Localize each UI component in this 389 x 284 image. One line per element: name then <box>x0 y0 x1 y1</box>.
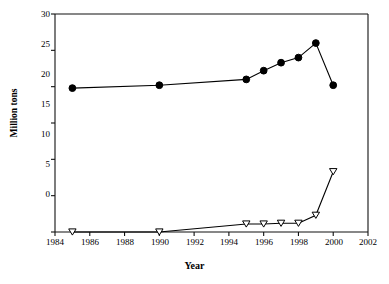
marker-filled-circle <box>243 76 250 83</box>
marker-open-down-triangle <box>312 212 319 218</box>
marker-filled-circle <box>69 85 76 92</box>
y-tick-label-10: 10 <box>24 130 50 139</box>
y-tick-label-20: 20 <box>24 70 50 79</box>
x-tick-label-1986: 1986 <box>70 238 110 247</box>
marker-filled-circle <box>295 54 302 61</box>
marker-filled-circle <box>278 59 285 66</box>
series-markers <box>69 40 337 235</box>
marker-filled-circle <box>156 82 163 89</box>
x-axis-ticks <box>55 232 368 236</box>
y-tick-label-5: 5 <box>24 160 50 169</box>
x-tick-label-2002: 2002 <box>348 238 388 247</box>
series-lines <box>72 43 333 232</box>
marker-filled-circle <box>260 67 267 74</box>
x-tick-label-1990: 1990 <box>140 238 180 247</box>
y-tick-label-0: 0 <box>24 190 50 199</box>
line-filled-circle-series <box>72 43 333 88</box>
axis-frame <box>55 14 368 232</box>
y-tick-label-25: 25 <box>24 40 50 49</box>
x-axis-title: Year <box>0 260 389 271</box>
y-axis-ticks <box>51 14 55 232</box>
y-tick-label-15: 15 <box>24 100 50 109</box>
x-tick-label-1988: 1988 <box>105 238 145 247</box>
y-axis-title: Million tons <box>9 73 19 153</box>
marker-open-down-triangle <box>330 169 337 175</box>
x-tick-label-1998: 1998 <box>279 238 319 247</box>
x-tick-label-1994: 1994 <box>209 238 249 247</box>
y-tick-label-30: 30 <box>24 10 50 19</box>
marker-filled-circle <box>312 40 319 47</box>
chart-figure: Million tons Year 30 25 20 15 10 5 0 198… <box>0 0 389 284</box>
marker-filled-circle <box>330 82 337 89</box>
line-open-triangle-series <box>72 172 333 232</box>
x-tick-label-1996: 1996 <box>244 238 284 247</box>
x-tick-label-1984: 1984 <box>35 238 75 247</box>
